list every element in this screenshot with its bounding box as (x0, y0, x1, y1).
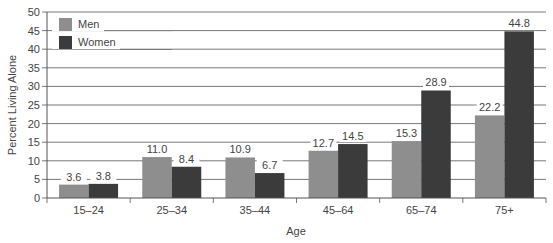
x-category-label: 25–34 (156, 204, 187, 216)
legend-label-women: Women (78, 36, 116, 48)
x-axis-categories: 15–2425–3435–4445–6465–7475+ (73, 204, 513, 216)
y-tick-label: 25 (28, 99, 40, 111)
bar-women (255, 173, 285, 198)
value-label: 8.4 (179, 153, 194, 165)
y-tick-label: 10 (28, 155, 40, 167)
y-tick-label: 15 (28, 136, 40, 148)
legend: MenWomen (52, 18, 172, 49)
bar-men (225, 157, 255, 198)
x-category-label: 45–64 (323, 204, 354, 216)
y-tick-label: 0 (34, 192, 40, 204)
y-tick-label: 20 (28, 118, 40, 130)
y-tick-label: 35 (28, 62, 40, 74)
bar-women (172, 167, 202, 198)
value-label: 14.5 (342, 130, 363, 142)
bar-men (309, 151, 339, 198)
value-label: 12.7 (313, 137, 334, 149)
bar-women (421, 90, 451, 198)
bar-women (504, 31, 533, 198)
bar-men (142, 157, 172, 198)
legend-label-men: Men (78, 18, 99, 30)
legend-swatch-women (59, 36, 72, 49)
x-axis-title: Age (286, 225, 306, 237)
value-label: 10.9 (229, 143, 250, 155)
bar-women (338, 144, 368, 198)
y-tick-label: 50 (28, 6, 40, 18)
y-tick-label: 30 (28, 80, 40, 92)
y-tick-label: 5 (34, 173, 40, 185)
value-label: 3.6 (66, 171, 81, 183)
bar-men (475, 115, 505, 198)
bar-chart: 05101520253035404550 3.63.811.08.410.96.… (0, 0, 553, 243)
x-category-label: 35–44 (240, 204, 271, 216)
bar-women (89, 184, 119, 198)
value-label: 3.8 (96, 170, 111, 182)
x-category-label: 15–24 (73, 204, 104, 216)
value-label: 15.3 (396, 127, 417, 139)
y-axis-title: Percent Living Alone (6, 55, 18, 155)
value-label: 28.9 (425, 76, 446, 88)
y-tick-label: 40 (28, 43, 40, 55)
bar-men (392, 141, 422, 198)
value-label: 44.8 (508, 17, 529, 29)
y-axis-ticks: 05101520253035404550 (28, 6, 47, 204)
value-label: 11.0 (147, 143, 168, 155)
value-label: 6.7 (262, 159, 277, 171)
y-tick-label: 45 (28, 25, 40, 37)
bar-men (59, 185, 88, 198)
value-label: 22.2 (479, 101, 500, 113)
legend-swatch-men (59, 18, 72, 31)
x-category-label: 65–74 (406, 204, 437, 216)
x-category-label: 75+ (495, 204, 514, 216)
